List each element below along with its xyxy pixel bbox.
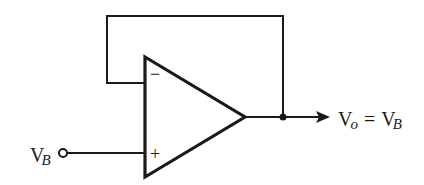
inverting-input-symbol: − <box>150 64 160 84</box>
input-label: VB <box>30 144 51 168</box>
voltage-follower-diagram: − + VB Vo=VB <box>0 0 424 185</box>
output-junction-dot <box>280 114 287 121</box>
non-inverting-input-symbol: + <box>150 144 160 164</box>
feedback-wire <box>107 16 283 117</box>
input-terminal <box>59 149 67 157</box>
output-label: Vo=VB <box>338 108 402 132</box>
